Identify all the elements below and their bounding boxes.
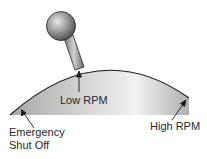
- high-rpm-label: High RPM: [150, 120, 200, 133]
- lever-knob: [47, 12, 76, 41]
- emergency-shutoff-label-line1: Emergency: [9, 126, 65, 139]
- throttle-quadrant: [10, 70, 189, 115]
- lever-stem: [64, 35, 84, 70]
- emergency-shutoff-label-line2: Shut Off: [9, 139, 49, 152]
- low-rpm-label: Low RPM: [60, 94, 108, 107]
